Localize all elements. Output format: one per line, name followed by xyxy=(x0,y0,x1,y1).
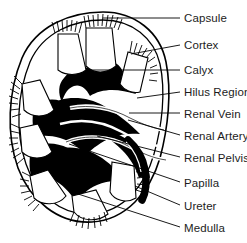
label-renal-artery: Renal Artery xyxy=(184,130,247,142)
label-medulla: Medulla xyxy=(184,222,225,234)
label-ureter: Ureter xyxy=(184,200,217,212)
label-renal-pelvis: Renal Pelvis xyxy=(184,152,247,164)
label-papilla: Papilla xyxy=(184,177,219,189)
label-hilus-region: Hilus Region xyxy=(184,86,247,98)
kidney-diagram-figure: CapsuleCortexCalyxHilus RegionRenal Vein… xyxy=(0,0,247,243)
label-capsule: Capsule xyxy=(184,12,227,24)
label-cortex: Cortex xyxy=(184,39,218,51)
label-renal-vein: Renal Vein xyxy=(184,108,241,120)
label-calyx: Calyx xyxy=(184,64,213,76)
